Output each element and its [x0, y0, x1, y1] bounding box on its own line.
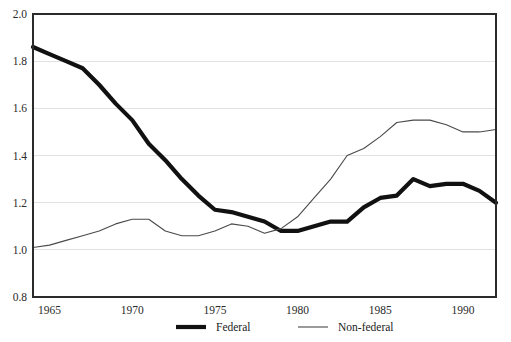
x-tick-label-2: 1975	[203, 304, 226, 316]
y-tick-label-1: 1.0	[13, 244, 28, 256]
x-tick-label-1: 1970	[121, 304, 144, 316]
chart-figure: 0.81.01.21.41.61.82.0 196519701975198019…	[0, 0, 511, 342]
x-tick-label-4: 1985	[369, 304, 392, 316]
x-axis-tick-labels: 196519701975198019851990	[38, 304, 475, 316]
y-tick-label-2: 1.2	[13, 197, 28, 209]
y-tick-label-5: 1.8	[13, 55, 28, 67]
y-tick-label-4: 1.6	[13, 102, 28, 114]
x-tick-label-0: 1965	[38, 304, 61, 316]
series-line-federal	[33, 47, 496, 231]
series-group	[33, 47, 496, 247]
y-axis-tick-labels: 0.81.01.21.41.61.82.0	[13, 8, 28, 303]
chart-legend: FederalNon-federal	[176, 321, 394, 333]
x-tick-label-5: 1990	[451, 304, 474, 316]
y-tick-label-0: 0.8	[13, 291, 28, 303]
line-chart: 0.81.01.21.41.61.82.0 196519701975198019…	[0, 0, 511, 342]
legend-label-federal: Federal	[216, 321, 250, 333]
legend-label-non-federal: Non-federal	[338, 321, 394, 333]
y-tick-label-6: 2.0	[13, 8, 28, 20]
x-tick-label-3: 1980	[286, 304, 309, 316]
y-tick-label-3: 1.4	[13, 150, 28, 162]
